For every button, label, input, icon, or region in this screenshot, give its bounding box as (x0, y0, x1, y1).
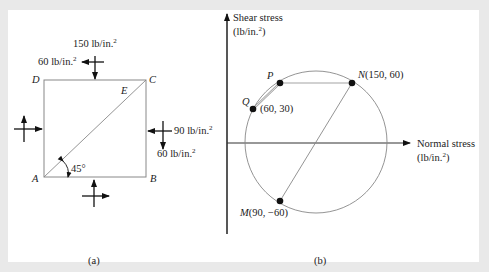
top-normal-stress-label: 150 lb/in.2 (73, 39, 117, 50)
angle-arc-icon (63, 161, 68, 177)
caption-b: (b) (314, 256, 326, 267)
point-n-label: N(150, 60) (358, 70, 404, 81)
vertex-b-label: B (150, 174, 156, 185)
caption-a: (a) (88, 256, 100, 267)
vertex-d-label: D (32, 75, 40, 86)
shear-axis-unit: (lb/in.2) (233, 27, 265, 38)
point-m-label: M(90, −60) (240, 208, 288, 219)
vertex-e-label: E (121, 86, 127, 97)
vertex-c-label: C (149, 75, 156, 86)
point-p-label: P (267, 71, 273, 82)
right-stress-arrows-icon (148, 121, 172, 149)
right-normal-stress-label: 90 lb/in.2 (174, 126, 213, 137)
normal-axis-label: Normal stress (417, 139, 475, 150)
point-m (277, 198, 284, 205)
point-q (250, 106, 257, 113)
point-q-coords: (60, 30) (260, 104, 293, 115)
point-q-label: Q (242, 97, 250, 108)
left-stress-arrows-icon (14, 116, 42, 142)
right-shear-stress-label: 60 lb/in.2 (157, 149, 196, 160)
top-stress-arrows-icon (82, 56, 104, 79)
point-n (349, 80, 356, 87)
angle-label: 45° (71, 164, 86, 175)
vertex-a-label: A (32, 174, 38, 185)
point-p (277, 80, 284, 87)
shear-axis-label: Shear stress (233, 13, 283, 24)
stress-element (44, 80, 146, 177)
normal-axis-unit: (lb/in.2) (417, 153, 449, 164)
line-m-n (280, 83, 352, 201)
bottom-stress-arrows-icon (82, 180, 109, 207)
top-shear-stress-label: 60 lb/in.2 (38, 57, 77, 68)
